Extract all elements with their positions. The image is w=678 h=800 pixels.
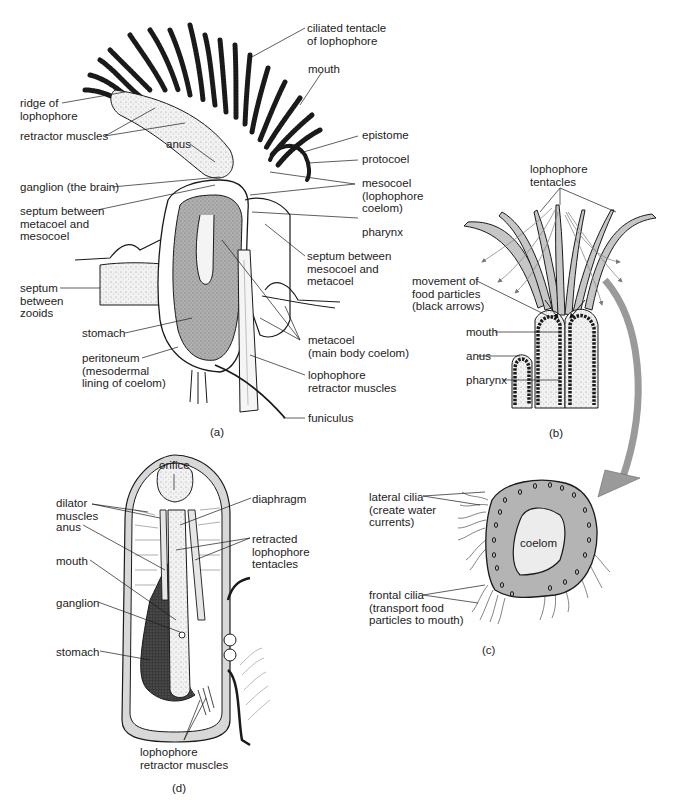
label-retractor-muscles-a: retractor muscles — [20, 130, 108, 143]
label-lophophore-tentacles: lophophore tentacles — [530, 163, 588, 188]
label-peritoneum: peritoneum (mesodermal lining of coelom) — [82, 352, 166, 390]
label-mouth-b: mouth — [466, 326, 498, 339]
panel-b-letter: (b) — [549, 427, 563, 439]
label-anus-b: anus — [466, 350, 491, 363]
label-pharynx-a: pharynx — [362, 226, 403, 239]
label-dilator-muscles: dilator muscles — [56, 497, 98, 522]
label-lateral-cilia: lateral cilia (create water currents) — [369, 491, 436, 529]
label-protocoel: protocoel — [362, 153, 409, 166]
label-anus-d: anus — [56, 521, 81, 534]
label-stomach-a: stomach — [82, 327, 125, 340]
label-septum-metacoel-mesocoel: septum between metacoel and mesocoel — [20, 205, 104, 243]
bryozoan-anatomy-figure: ciliated tentacle of lophophore mouth ri… — [0, 0, 678, 800]
label-frontal-cilia: frontal cilia (transport food particles … — [369, 589, 464, 627]
figure-illustrations — [0, 0, 678, 800]
panel-c-letter: (c) — [482, 644, 495, 656]
label-metacoel: metacoel (main body coelom) — [308, 334, 409, 359]
label-retracted-tentacles: retracted lophophore tentacles — [252, 533, 310, 571]
panel-a-letter: (a) — [210, 426, 224, 438]
label-ridge-of-lophophore: ridge of lophophore — [20, 97, 78, 122]
label-epistome: epistome — [362, 129, 409, 142]
label-ciliated-tentacle: ciliated tentacle of lophophore — [307, 22, 386, 47]
panel-b-illustration — [464, 205, 656, 497]
panel-c-illustration — [458, 480, 610, 624]
label-lophophore-retractor-d: lophophore retractor muscles — [140, 746, 228, 771]
label-stomach-d: stomach — [56, 646, 99, 659]
label-movement-food-particles: movement of food particles (black arrows… — [412, 275, 484, 313]
label-septum-mesocoel-metacoel: septum between mesocoel and metacoel — [307, 250, 391, 288]
panel-d-illustration — [122, 455, 270, 745]
label-diaphragm: diaphragm — [252, 493, 306, 506]
label-anus-a: anus — [166, 138, 191, 151]
label-funiculus: funiculus — [308, 412, 353, 425]
label-coelom: coelom — [520, 537, 557, 550]
label-lophophore-retractor-a: lophophore retractor muscles — [308, 369, 396, 394]
label-ganglion-d: ganglion — [56, 597, 99, 610]
label-mouth-d: mouth — [56, 555, 88, 568]
panel-d-letter: (d) — [172, 782, 186, 794]
label-pharynx-b: pharynx — [466, 374, 507, 387]
label-ganglion-brain: ganglion (the brain) — [20, 181, 119, 194]
label-mesocoel: mesocoel (lophophore coelom) — [362, 177, 423, 215]
label-orifice: orifice — [159, 459, 190, 472]
label-septum-between-zooids: septum between zooids — [20, 282, 63, 320]
label-mouth-a: mouth — [308, 63, 340, 76]
